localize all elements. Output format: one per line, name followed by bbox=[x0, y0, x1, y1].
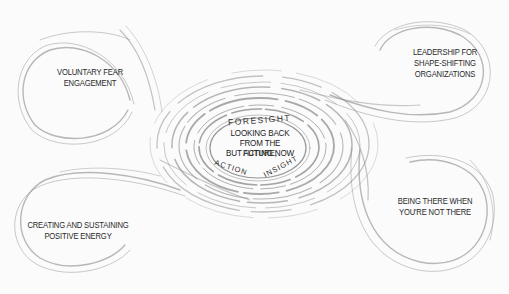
node-line: LEADERSHIP FOR bbox=[398, 47, 492, 58]
node-leadership-shape-shifting: LEADERSHIP FOR SHAPE-SHIFTING ORGANIZATI… bbox=[398, 47, 492, 80]
node-line: CREATING AND SUSTAINING bbox=[19, 220, 138, 231]
node-line: SHAPE-SHIFTING bbox=[398, 58, 492, 69]
center-line-3: BUT ACTING NOW bbox=[222, 148, 299, 158]
node-line: YOU'RE NOT THERE bbox=[384, 207, 486, 218]
node-being-there: BEING THERE WHEN YOU'RE NOT THERE bbox=[384, 196, 486, 218]
node-line: ORGANIZATIONS bbox=[398, 69, 492, 80]
loop-bottom-left bbox=[15, 160, 250, 272]
node-voluntary-fear-engagement: VOLUNTARY FEAR ENGAGEMENT bbox=[48, 67, 133, 89]
node-line: BEING THERE WHEN bbox=[384, 196, 486, 207]
node-positive-energy: CREATING AND SUSTAINING POSITIVE ENERGY bbox=[19, 220, 138, 242]
node-line: POSITIVE ENERGY bbox=[19, 231, 138, 242]
node-line: ENGAGEMENT bbox=[48, 78, 133, 89]
node-line: VOLUNTARY FEAR bbox=[48, 67, 133, 78]
